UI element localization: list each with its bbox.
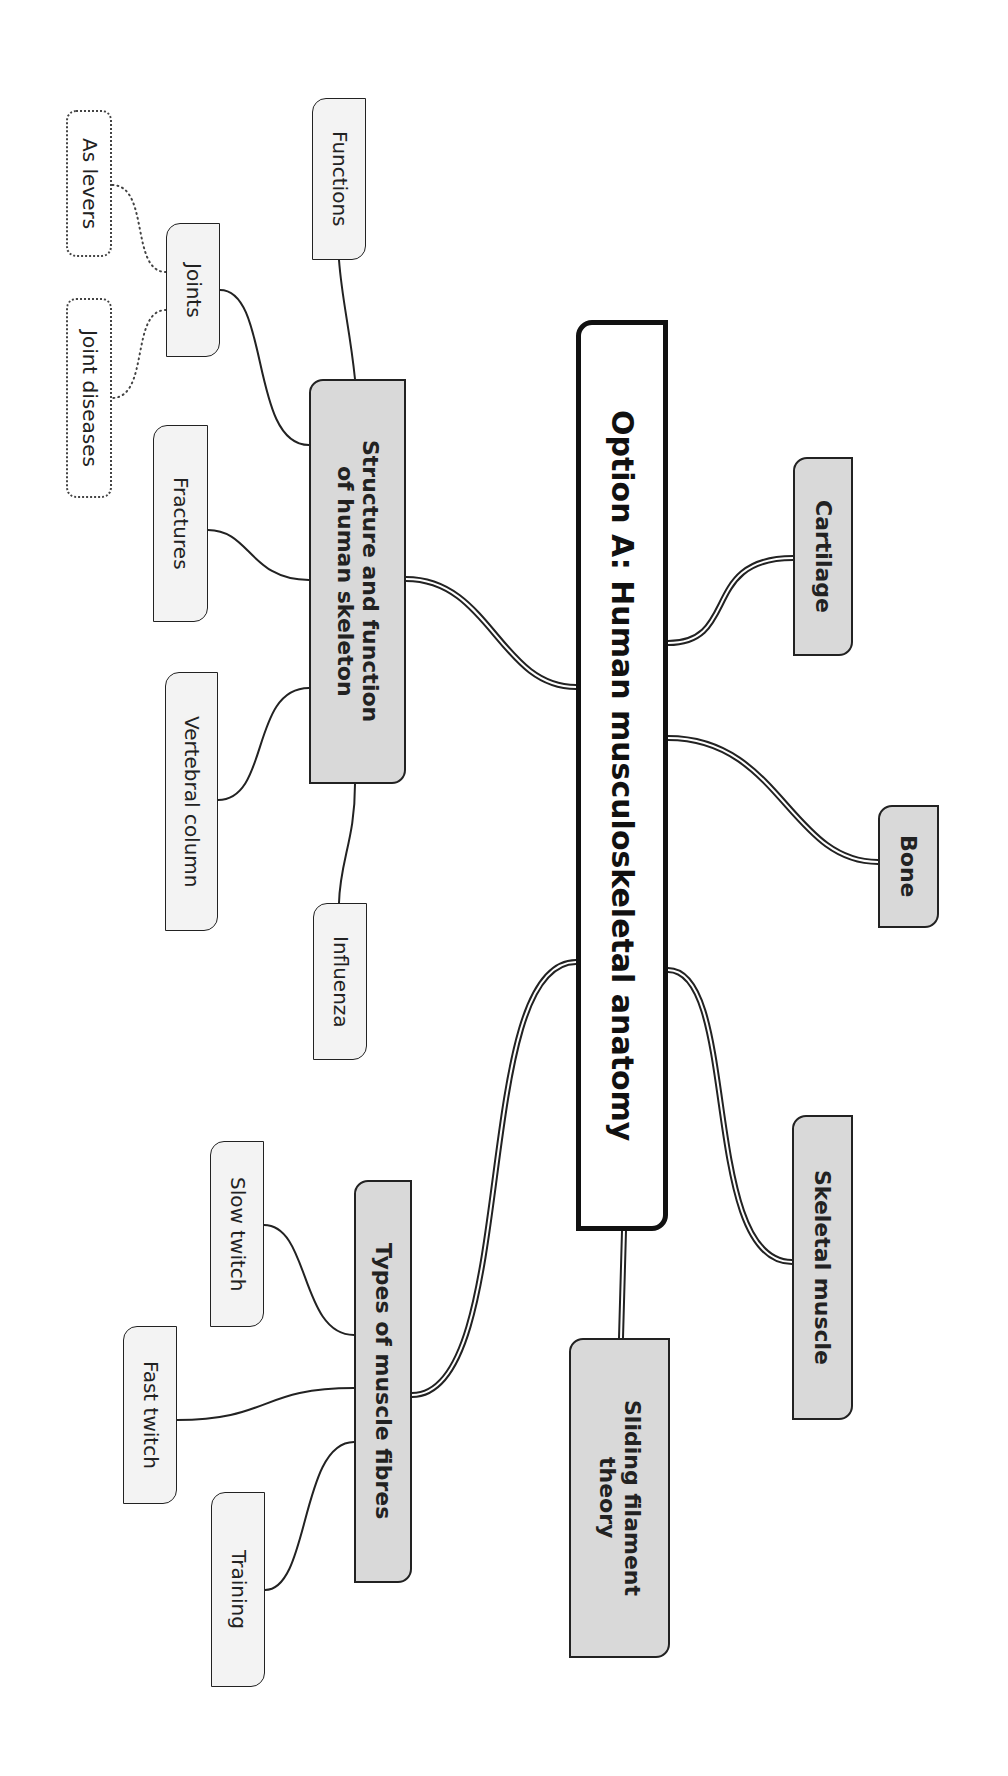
leaf-fractures-label: Fractures	[169, 477, 192, 570]
leaf-fractures[interactable]: Fractures	[153, 425, 208, 622]
branch-sliding-filament-label: Sliding filament theory	[594, 1400, 645, 1596]
connector-main-cartilage	[668, 558, 793, 643]
branch-skeletal-muscle[interactable]: Skeletal muscle	[792, 1115, 853, 1420]
connector-structure-influenza	[339, 784, 355, 903]
leaf-influenza-label: Influenza	[329, 936, 352, 1028]
leaf-slow-twitch-label: Slow twitch	[226, 1177, 249, 1291]
leaf-vertebral-column[interactable]: Vertebral column	[165, 672, 218, 931]
connector-layer	[0, 0, 1008, 1776]
branch-cartilage-label: Cartilage	[810, 500, 835, 613]
branch-cartilage[interactable]: Cartilage	[793, 457, 853, 656]
connector-main-types	[412, 962, 576, 1395]
connector-main-cartilage	[668, 558, 793, 643]
branch-types-label: Types of muscle fibres	[370, 1243, 395, 1519]
central-topic[interactable]: Option A: Human musculoskeletal anatomy	[576, 320, 668, 1231]
leaf-fast-twitch-label: Fast twitch	[139, 1361, 162, 1469]
connector-main-bone	[668, 738, 878, 862]
connector-main-skeletal_muscle	[668, 970, 792, 1262]
leaf-slow-twitch[interactable]: Slow twitch	[210, 1141, 264, 1327]
central-topic-label: Option A: Human musculoskeletal anatomy	[605, 410, 640, 1141]
leaf-fast-twitch[interactable]: Fast twitch	[123, 1326, 177, 1504]
leaf-joint-diseases[interactable]: Joint diseases	[66, 298, 112, 498]
connector-structure-joints	[220, 290, 309, 445]
branch-bone-label: Bone	[896, 835, 921, 897]
branch-structure-function-skeleton[interactable]: Structure and function of human skeleton	[309, 379, 406, 784]
connector-main-structure	[406, 579, 576, 687]
branch-types-muscle-fibres[interactable]: Types of muscle fibres	[354, 1180, 412, 1583]
connector-types-slow_twitch	[264, 1225, 354, 1335]
connector-main-skeletal_muscle	[668, 970, 792, 1262]
leaf-training[interactable]: Training	[211, 1492, 265, 1687]
branch-skeletal-muscle-label: Skeletal muscle	[810, 1170, 835, 1365]
leaf-as-levers-label: As levers	[78, 138, 101, 229]
leaf-influenza[interactable]: Influenza	[313, 903, 367, 1060]
connector-types-training	[265, 1442, 354, 1590]
leaf-functions[interactable]: Functions	[312, 98, 366, 260]
leaf-functions-label: Functions	[328, 131, 351, 227]
connector-structure-functions	[339, 260, 355, 379]
leaf-vertebral-column-label: Vertebral column	[180, 716, 203, 888]
connector-joints-joint_diseases	[112, 310, 166, 398]
leaf-joints-label: Joints	[182, 263, 205, 318]
connector-types-fast_twitch	[177, 1388, 354, 1420]
leaf-joints[interactable]: Joints	[166, 223, 220, 357]
connector-joints-as_levers	[112, 185, 166, 272]
connector-structure-vertebral_column	[218, 688, 309, 800]
branch-sliding-filament-theory[interactable]: Sliding filament theory	[569, 1338, 670, 1658]
connector-main-bone	[668, 738, 878, 862]
leaf-joint-diseases-label: Joint diseases	[78, 330, 101, 467]
branch-bone[interactable]: Bone	[878, 805, 939, 928]
connector-structure-fractures	[208, 530, 309, 580]
leaf-training-label: Training	[227, 1550, 250, 1629]
branch-structure-label: Structure and function of human skeleton	[332, 440, 383, 722]
leaf-as-levers[interactable]: As levers	[66, 110, 112, 257]
